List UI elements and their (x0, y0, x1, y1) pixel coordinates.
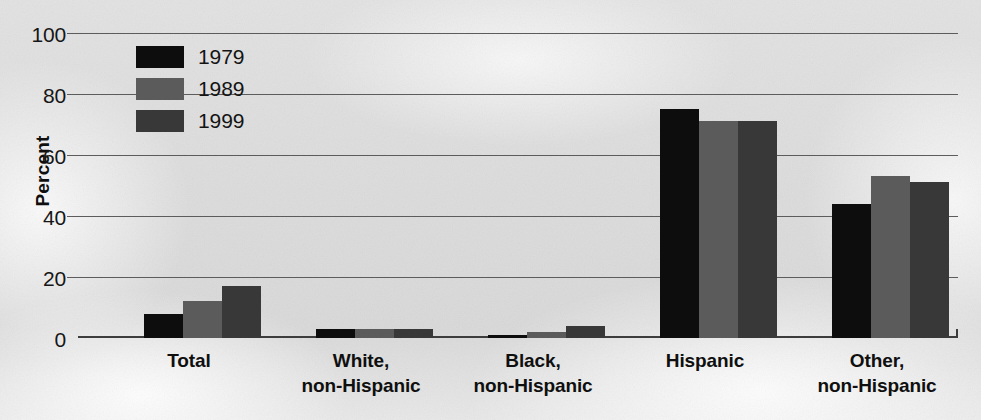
x-label-other-line2: non-Hispanic (782, 373, 972, 398)
legend-label-1999: 1999 (198, 108, 244, 134)
bar-hispanic-1999 (738, 121, 777, 338)
x-label-hispanic: Hispanic (610, 348, 800, 373)
y-tick-label-20: 20 (43, 268, 66, 289)
x-label-white-line2: non-Hispanic (266, 373, 456, 398)
x-label-other-line1: Other, (782, 348, 972, 373)
gridline-100 (78, 33, 958, 34)
x-label-white-non-hispanic: White, non-Hispanic (266, 348, 456, 398)
bar-other-1999 (910, 182, 949, 338)
y-tick-label-40: 40 (43, 207, 66, 228)
x-label-total-line1: Total (94, 348, 284, 373)
axis-right-cap (956, 329, 958, 338)
y-tick-label-0: 0 (55, 329, 66, 350)
legend-label-1979: 1979 (198, 44, 244, 70)
bar-total-1999 (222, 286, 261, 338)
bar-total-1989 (183, 301, 222, 338)
legend-entry-1999: 1999 (136, 108, 286, 137)
bar-black-1999 (566, 326, 605, 338)
legend-swatch-1989 (136, 78, 184, 100)
bar-white-1979 (316, 329, 355, 338)
bar-total-1979 (144, 314, 183, 338)
bar-other-1979 (832, 204, 871, 338)
legend: 1979 1989 1999 (136, 44, 286, 140)
x-label-other-non-hispanic: Other, non-Hispanic (782, 348, 972, 398)
bar-other-1989 (871, 176, 910, 338)
y-tick-label-80: 80 (43, 85, 66, 106)
chart-figure: Percent 100 80 60 40 20 0 (0, 0, 981, 420)
gridline-20 (78, 277, 958, 278)
legend-swatch-1999 (136, 110, 184, 132)
x-label-hispanic-line1: Hispanic (610, 348, 800, 373)
legend-entry-1979: 1979 (136, 44, 286, 73)
y-tick-label-60: 60 (43, 146, 66, 167)
x-label-total: Total (94, 348, 284, 373)
x-label-black-non-hispanic: Black, non-Hispanic (438, 348, 628, 398)
gridline-60 (78, 155, 958, 156)
bar-black-1989 (527, 332, 566, 338)
legend-label-1989: 1989 (198, 76, 244, 102)
gridline-40 (78, 216, 958, 217)
bar-hispanic-1979 (660, 109, 699, 338)
bar-black-1979 (488, 335, 527, 338)
bar-hispanic-1989 (699, 121, 738, 338)
x-label-black-line2: non-Hispanic (438, 373, 628, 398)
bar-white-1999 (394, 329, 433, 338)
y-axis-tick-labels: 100 80 60 40 20 0 (14, 33, 66, 338)
x-label-white-line1: White, (266, 348, 456, 373)
x-axis-category-labels: Total White, non-Hispanic Black, non-His… (78, 348, 958, 414)
legend-swatch-1979 (136, 46, 184, 68)
x-label-black-line1: Black, (438, 348, 628, 373)
bar-white-1989 (355, 329, 394, 338)
y-tick-label-100: 100 (32, 24, 66, 45)
legend-entry-1989: 1989 (136, 76, 286, 105)
